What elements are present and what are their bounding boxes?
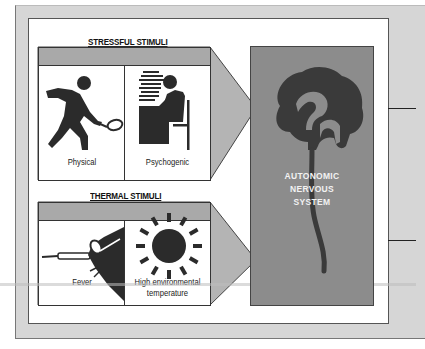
ans-label-line-2: NERVOUS [250, 183, 374, 196]
thermal-stimuli-title: THERMAL STIMULI [90, 190, 161, 201]
caption-line-2: temperature [131, 288, 203, 299]
thermometer-hand-icon [40, 221, 124, 305]
caption-psychogenic: Psychogenic [131, 157, 203, 168]
ans-label-line-3: SYSTEM [250, 196, 374, 209]
person-at-desk-icon [125, 66, 210, 156]
ans-label-line-1: AUTONOMIC [250, 170, 374, 183]
sun-icon [125, 210, 210, 280]
ans-label: AUTONOMIC NERVOUS SYSTEM [250, 170, 374, 209]
caption-physical: Physical [46, 157, 117, 168]
tennis-player-icon [40, 66, 124, 156]
header-band [39, 48, 210, 66]
caption-high-environmental-temperature: High environmental temperature [131, 277, 203, 299]
